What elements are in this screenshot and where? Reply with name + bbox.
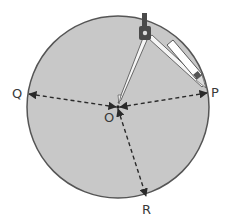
label-p: P bbox=[211, 86, 219, 99]
label-o: O bbox=[104, 111, 114, 124]
center-point bbox=[116, 105, 120, 109]
label-r: R bbox=[142, 203, 151, 216]
label-q: Q bbox=[12, 87, 22, 100]
circle-diagram bbox=[0, 0, 231, 224]
